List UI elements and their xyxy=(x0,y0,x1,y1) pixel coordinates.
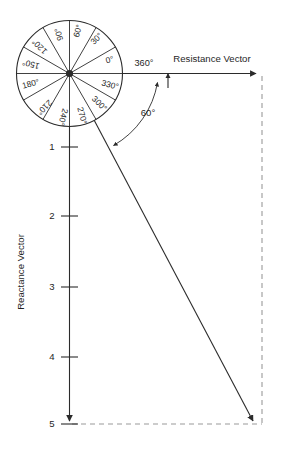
impedance-vector-diagram: 1 2 3 4 5 Reactance Vector Resistance Ve… xyxy=(0,0,285,452)
angle-annotation-group: 60° xyxy=(114,83,158,146)
protractor-wheel: 0° 30° 60° 90° 120° 150° 180° 210° 240° … xyxy=(17,21,123,127)
resistance-axis-title: Resistance Vector xyxy=(173,53,251,64)
reactance-tick-label-2: 2 xyxy=(49,210,54,221)
impedance-vector-group xyxy=(70,74,254,422)
reactance-tick-label-1: 1 xyxy=(49,141,54,152)
full-circle-label: 360° xyxy=(134,58,153,68)
reactance-tick-label-4: 4 xyxy=(49,351,55,362)
protractor-center-hub xyxy=(66,70,73,77)
reactance-tick-label-5: 5 xyxy=(49,418,54,429)
vector-diagram-canvas: 1 2 3 4 5 Reactance Vector Resistance Ve… xyxy=(0,0,285,452)
construction-lines xyxy=(72,76,262,424)
angle-label: 60° xyxy=(141,107,156,118)
reactance-tick-label-3: 3 xyxy=(49,281,54,292)
reactance-axis-title: Reactance Vector xyxy=(15,233,26,310)
impedance-vector-line xyxy=(70,74,254,422)
